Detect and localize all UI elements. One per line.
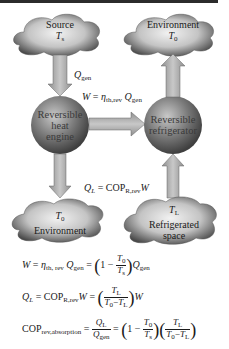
equation-ql: QL = COPR,revW = (TLT0−TL)W	[0, 286, 229, 310]
environment-bottom-temp: T0	[22, 210, 98, 225]
q0-arrow	[49, 154, 71, 198]
environment-bottom-label: Environment	[22, 225, 98, 236]
refrigerator-label: Reversible refrigerator	[140, 114, 206, 136]
environment-top-label-group: Environment T0	[138, 19, 208, 45]
environment-top-temp: T0	[138, 30, 208, 45]
source-label: Source	[32, 19, 88, 30]
environment-bottom-label-group: T0 Environment	[22, 210, 98, 236]
source-label-group: Source Ts	[32, 19, 88, 45]
equation-cop-absorption: COPrev,absorption = QLQgen = (1 − T0Ts)(…	[0, 318, 229, 342]
qgen-label: Qgen	[74, 70, 91, 82]
environment-top-label: Environment	[138, 19, 208, 30]
work-label: W = ηth,rev Qgen	[82, 92, 142, 104]
source-temp: Ts	[32, 30, 88, 45]
refrigerated-space-label-group: TL Refrigerated space	[136, 204, 212, 241]
qh-arrow	[161, 54, 185, 97]
ql-label: QL = COPR,revW	[84, 183, 149, 195]
heat-engine-label: Reversible heat engine	[30, 109, 90, 142]
refrigerated-space-temp: TL	[136, 204, 212, 219]
work-arrow	[89, 112, 145, 136]
equation-work: W = ηth, rev Qgen = (1 − T0Ts)Qgen	[0, 254, 229, 278]
ql-arrow	[162, 154, 184, 198]
qgen-arrow	[48, 55, 72, 96]
